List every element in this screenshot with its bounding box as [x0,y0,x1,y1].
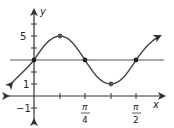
svg-text:π: π [133,102,139,112]
svg-text:π: π [82,102,88,112]
svg-text:2: 2 [133,115,139,125]
y-tick-label-neg1: −1 [16,103,31,114]
x-axis-label: x [152,99,159,110]
y-tick-label-5: 5 [20,31,26,42]
x-tick-label-pi-over-4: π 4 [81,102,90,125]
sine-graph: y x 5 1 −1 π 4 π 2 [0,0,174,128]
x-tick-label-pi-over-2: π 2 [132,102,141,125]
y-tick-label-1: 1 [23,79,29,90]
svg-text:4: 4 [82,115,88,125]
y-axis-label: y [39,6,47,17]
